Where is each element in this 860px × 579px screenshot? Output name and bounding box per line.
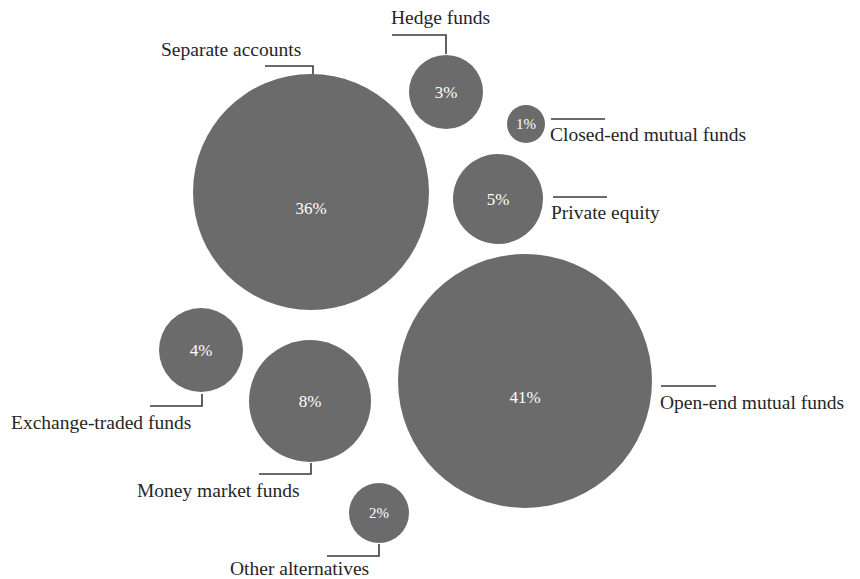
leader-line-hedge-funds: [392, 35, 446, 54]
bubble-label-closed-end-mutual-funds: Closed-end mutual funds: [550, 124, 746, 145]
bubble-chart-canvas: 36%3%1%5%41%4%8%2% Separate accountsHedg…: [0, 0, 860, 579]
bubble-value-open-end-mutual-funds: 41%: [509, 388, 540, 407]
leader-line-money-market-funds: [259, 463, 311, 474]
bubble-label-open-end-mutual-funds: Open-end mutual funds: [660, 392, 844, 413]
bubble-label-separate-accounts: Separate accounts: [161, 39, 301, 60]
bubble-value-separate-accounts: 36%: [295, 199, 326, 218]
bubble-value-money-market-funds: 8%: [299, 392, 322, 411]
leader-line-other-alternatives: [327, 544, 379, 556]
bubble-label-other-alternatives: Other alternatives: [230, 558, 369, 579]
bubble-chart: 36%3%1%5%41%4%8%2% Separate accountsHedg…: [0, 0, 860, 579]
bubble-label-money-market-funds: Money market funds: [137, 480, 299, 501]
bubble-value-hedge-funds: 3%: [435, 83, 458, 102]
bubble-value-other-alternatives: 2%: [369, 505, 389, 521]
bubble-value-exchange-traded-funds: 4%: [190, 341, 213, 360]
bubble-open-end-mutual-funds[interactable]: [398, 254, 652, 508]
bubble-separate-accounts[interactable]: [193, 74, 429, 310]
bubble-value-closed-end-mutual-funds: 1%: [516, 116, 536, 132]
bubble-value-private-equity: 5%: [487, 190, 510, 209]
leader-line-exchange-traded-funds: [150, 394, 202, 406]
bubble-label-private-equity: Private equity: [551, 202, 660, 223]
bubble-label-exchange-traded-funds: Exchange-traded funds: [11, 412, 191, 433]
bubble-label-hedge-funds: Hedge funds: [391, 7, 490, 28]
